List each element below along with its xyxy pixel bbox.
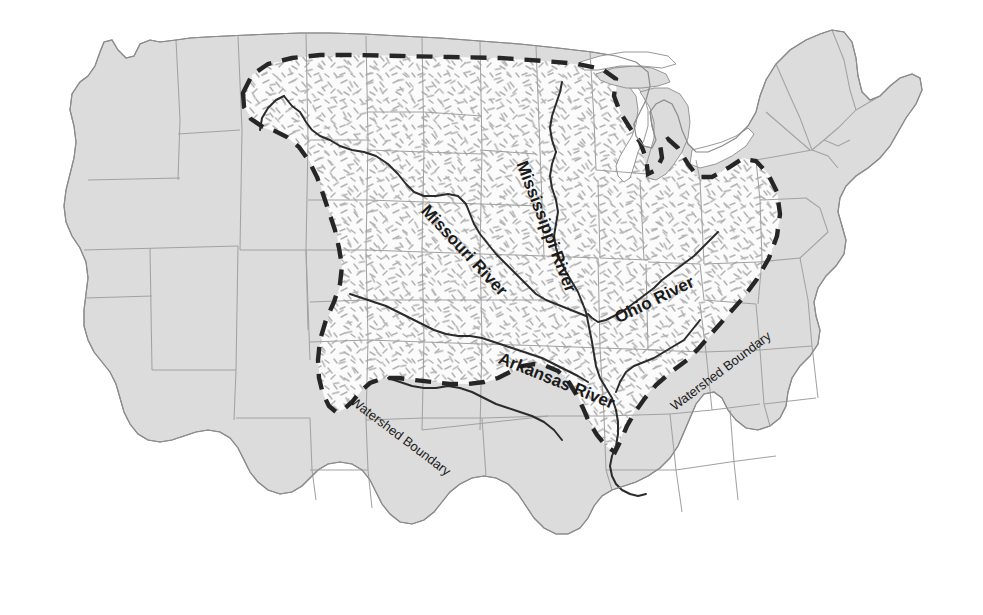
watershed-map: Missouri River Mississippi River Ohio Ri… [0, 0, 983, 615]
us-map-svg [0, 0, 983, 615]
